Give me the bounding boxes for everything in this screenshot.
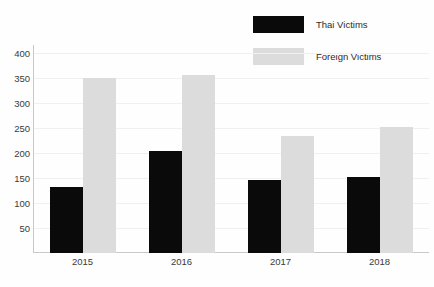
bar — [83, 78, 116, 253]
x-axis-tick-labels: 2015201620172018 — [33, 256, 429, 276]
y-axis-tick-label: 150 — [2, 172, 30, 183]
plot-area — [33, 45, 429, 253]
bar — [380, 127, 413, 253]
bar — [50, 187, 83, 253]
x-axis-tick-label: 2016 — [171, 256, 192, 267]
y-axis-tick-label: 350 — [2, 72, 30, 83]
y-axis-tick-label: 100 — [2, 197, 30, 208]
bar-group — [33, 45, 132, 253]
y-axis-tick-label: 300 — [2, 97, 30, 108]
x-axis-tick-label: 2018 — [369, 256, 390, 267]
bar — [281, 136, 314, 253]
y-axis-tick-label: 50 — [2, 222, 30, 233]
y-axis-tick-label: 400 — [2, 47, 30, 58]
bar — [248, 180, 281, 253]
legend-label-thai-victims: Thai Victims — [316, 19, 368, 30]
x-axis-tick-label: 2017 — [270, 256, 291, 267]
bar-group — [231, 45, 330, 253]
x-axis-tick-label: 2015 — [72, 256, 93, 267]
y-axis-tick-labels: 50100150200250300350400 — [0, 45, 30, 253]
bar — [149, 151, 182, 253]
bar — [347, 177, 380, 253]
bar-group — [132, 45, 231, 253]
bar-group — [330, 45, 429, 253]
y-axis-tick-label: 250 — [2, 122, 30, 133]
legend-item-thai-victims: Thai Victims — [253, 8, 433, 40]
bars-layer — [33, 45, 429, 253]
y-axis-tick-label: 200 — [2, 147, 30, 158]
bar — [182, 75, 215, 253]
bar-chart: Thai Victims Foreign Victims 50100150200… — [0, 0, 434, 287]
black-swatch-icon — [253, 16, 304, 33]
